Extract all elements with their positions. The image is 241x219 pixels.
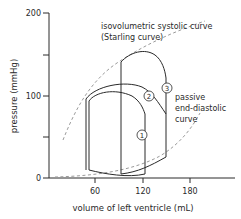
pv-loop-diagram: 200 100 0 pressure (mmHg) 60 120 180 vol…	[0, 0, 241, 219]
y-tick-100: 100	[26, 92, 41, 101]
loop-1	[89, 92, 145, 176]
x-tick-60: 60	[90, 187, 100, 196]
loop-marker-1: 1	[137, 130, 147, 140]
y-axis: 200 100 0 pressure (mmHg)	[9, 9, 49, 183]
x-axis: 60 120 180 volume of left ventricle (mL)	[43, 178, 235, 213]
loop-marker-3: 3	[162, 83, 172, 93]
label-diastolic-line2: end-diastolic	[175, 104, 226, 113]
x-axis-title: volume of left ventricle (mL)	[72, 203, 193, 213]
y-axis-title: pressure (mmHg)	[9, 59, 19, 133]
label-diastolic-line3: curve	[175, 115, 197, 124]
loop-marker-2: 2	[144, 91, 154, 101]
svg-text:1: 1	[140, 132, 144, 140]
label-diastolic-line1: passive	[175, 93, 205, 102]
y-tick-0: 0	[36, 174, 41, 183]
svg-text:2: 2	[147, 93, 151, 101]
loop-3	[121, 51, 166, 174]
label-systolic-line1: isovolumetric systolic curve	[101, 22, 212, 31]
label-systolic-line2: (Starling curve)	[101, 33, 163, 42]
svg-text:3: 3	[165, 85, 169, 93]
x-tick-180: 180	[182, 187, 197, 196]
y-tick-200: 200	[26, 9, 41, 18]
x-tick-120: 120	[135, 187, 150, 196]
